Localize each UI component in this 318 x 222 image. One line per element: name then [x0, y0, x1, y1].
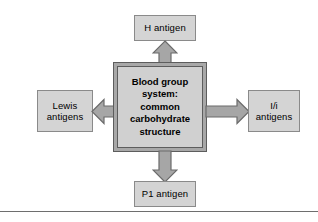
arrow-down-icon — [152, 150, 178, 183]
node-h-antigen: H antigen — [134, 15, 196, 41]
node-ii-antigens-label: I/i antigens — [256, 100, 293, 122]
diagram-canvas: H antigen Lewis antigens Blood group sys… — [0, 0, 318, 222]
arrow-right-icon — [205, 98, 250, 125]
arrow-left-icon — [91, 98, 115, 125]
node-blood-group-system: Blood group system: common carbohydrate … — [113, 62, 207, 152]
node-p1-antigen-label: P1 antigen — [142, 188, 188, 199]
node-blood-group-system-label: Blood group system: common carbohydrate … — [130, 76, 190, 139]
node-lewis-antigens: Lewis antigens — [37, 90, 93, 132]
bottom-divider — [0, 211, 318, 212]
node-p1-antigen: P1 antigen — [134, 181, 196, 207]
node-ii-antigens: I/i antigens — [248, 90, 300, 132]
node-lewis-antigens-label: Lewis antigens — [47, 100, 84, 122]
arrow-up-icon — [152, 40, 178, 64]
node-h-antigen-label: H antigen — [144, 22, 186, 33]
